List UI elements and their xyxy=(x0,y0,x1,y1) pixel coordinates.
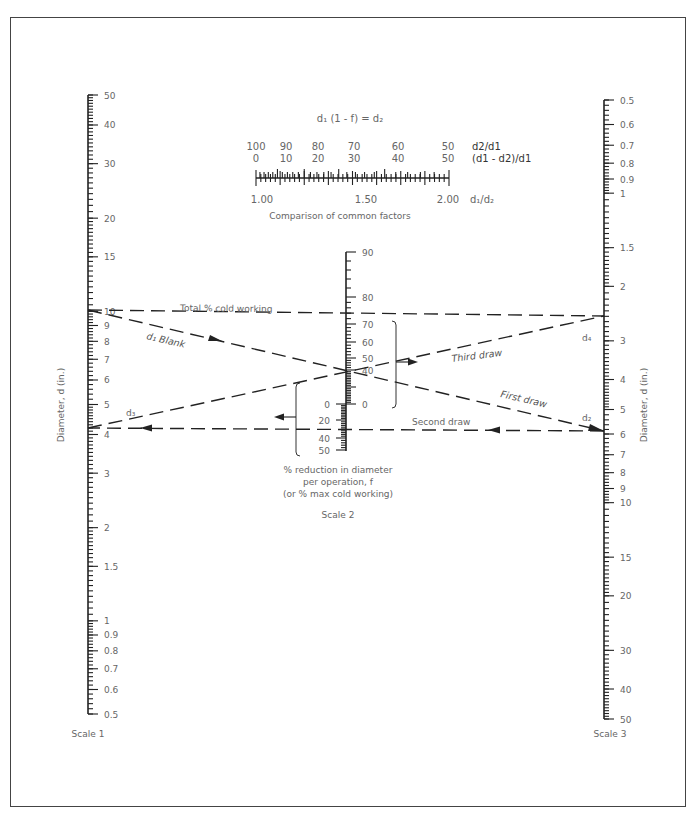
label-second-draw: Second draw xyxy=(412,417,470,427)
scale2-upper-tick-label: 50 xyxy=(362,354,374,364)
scale1-tick-label: 1 xyxy=(104,616,110,626)
scale2-upper-tick-label: 0 xyxy=(362,400,368,410)
cmp-top-5: 50 xyxy=(442,141,455,152)
scale3-tick-label: 20 xyxy=(620,591,632,601)
scale1-tick-label: 5 xyxy=(104,400,110,410)
cmp-mid-2: 20 xyxy=(312,153,325,164)
scale3-tick-label: 30 xyxy=(620,646,632,656)
formula: d₁ (1 - f) = d₂ xyxy=(317,113,383,124)
scale1-tick-label: 50 xyxy=(104,91,116,101)
scale2-lower-tick-label: 40 xyxy=(319,434,331,444)
scale2-caption-2: per operation, f xyxy=(303,477,374,487)
scale3-tick-label: 40 xyxy=(620,685,632,695)
cmp-bottom-1: 1.50 xyxy=(355,194,377,205)
label-d2: d₂ xyxy=(582,413,592,423)
label-d1-blank: d₁ Blank xyxy=(146,330,187,350)
scale3-tick-label: 0.8 xyxy=(620,159,635,169)
cmp-mid-label: (d1 - d2)/d1 xyxy=(472,153,531,164)
scale2-upper-tick-label: 60 xyxy=(362,338,374,348)
scale2-upper-bracket xyxy=(392,321,396,408)
comparison-scale: 100 90 80 70 60 50 d2/d1 0 10 20 30 40 5… xyxy=(246,141,531,221)
scale-1: 504030201510987654321.510.90.80.70.60.5 … xyxy=(56,91,119,740)
scale2-caption-1: % reduction in diameter xyxy=(284,465,393,475)
arrow-left-icon xyxy=(274,414,284,421)
scale1-tick-label: 0.8 xyxy=(104,646,119,656)
scale1-tick-label: 4 xyxy=(104,430,110,440)
scale3-axis-label: Diameter, d (in.) xyxy=(639,368,649,442)
scale3-tick-label: 15 xyxy=(620,553,631,563)
cmp-bottom-2: 2.00 xyxy=(437,194,459,205)
arrow-second-draw-right-icon xyxy=(488,427,500,434)
scale1-tick-label: 20 xyxy=(104,214,116,224)
scale2-lower-tick-label: 20 xyxy=(319,416,331,426)
scale3-tick-label: 0.6 xyxy=(620,120,635,130)
scale1-tick-label: 2 xyxy=(104,523,110,533)
cmp-top-2: 80 xyxy=(312,141,325,152)
cmp-mid-0: 0 xyxy=(253,153,259,164)
scale3-tick-label: 4 xyxy=(620,375,626,385)
scale2-lower-tick-label: 50 xyxy=(319,446,331,456)
scale3-tick-label: 8 xyxy=(620,468,626,478)
scale1-tick-label: 8 xyxy=(104,337,110,347)
scale1-tick-label: 9 xyxy=(104,321,110,331)
scale1-tick-label: 0.9 xyxy=(104,630,119,640)
cmp-caption: Comparison of common factors xyxy=(269,211,411,221)
scale3-tick-label: 0.5 xyxy=(620,96,634,106)
cmp-top-3: 70 xyxy=(348,141,361,152)
arrow-second-draw-left-icon xyxy=(140,425,152,432)
scale3-tick-label: 0.9 xyxy=(620,175,635,185)
scale2-upper-tick-label: 90 xyxy=(362,248,374,258)
arrow-right-icon xyxy=(408,359,418,366)
scale3-tick-label: 7 xyxy=(620,450,626,460)
label-third-draw: Third draw xyxy=(451,347,503,364)
cmp-top-4: 60 xyxy=(392,141,405,152)
cmp-top-label: d2/d1 xyxy=(472,141,501,152)
scale1-tick-label: 15 xyxy=(104,252,115,262)
scale1-tick-label: 1.5 xyxy=(104,562,118,572)
scale3-tick-label: 50 xyxy=(620,715,632,725)
cmp-bottom-0: 1.00 xyxy=(251,194,273,205)
scale1-tick-label: 0.6 xyxy=(104,685,119,695)
cmp-mid-5: 50 xyxy=(442,153,455,164)
scale1-tick-label: 0.7 xyxy=(104,664,118,674)
scale3-tick-label: 10 xyxy=(620,498,632,508)
scale3-tick-label: 2 xyxy=(620,282,626,292)
scale2-caption-3: (or % max cold working) xyxy=(283,489,393,499)
scale3-tick-label: 1.5 xyxy=(620,243,634,253)
label-d4: d₄ xyxy=(582,333,592,343)
label-first-draw: First draw xyxy=(500,388,549,409)
scale1-tick-label: 7 xyxy=(104,355,110,365)
scale3-tick-label: 0.7 xyxy=(620,141,634,151)
scale2-lower-tick-label: 0 xyxy=(324,400,330,410)
scale3-tick-label: 3 xyxy=(620,336,626,346)
nomogram: d₁ (1 - f) = d₂ 100 90 80 70 60 50 d2/d1… xyxy=(0,0,692,814)
scale2-upper-tick-label: 80 xyxy=(362,293,374,303)
cmp-bottom-label: d₁/d₂ xyxy=(470,194,494,205)
arrow-d2-icon xyxy=(588,424,604,431)
cmp-top-0: 100 xyxy=(246,141,265,152)
scale3-tick-label: 1 xyxy=(620,189,626,199)
scale1-tick-label: 6 xyxy=(104,375,110,385)
scale3-name: Scale 3 xyxy=(594,729,627,739)
cmp-ticks xyxy=(260,169,444,185)
scale-3: 0.50.60.70.80.911.523456789101520304050 … xyxy=(594,96,649,740)
cmp-mid-4: 40 xyxy=(392,153,405,164)
scale1-tick-label: 30 xyxy=(104,159,116,169)
cmp-mid-3: 30 xyxy=(348,153,361,164)
cmp-mid-1: 10 xyxy=(280,153,293,164)
scale1-name: Scale 1 xyxy=(72,729,105,739)
arrow-first-draw-icon xyxy=(208,335,222,341)
scale1-tick-label: 0.5 xyxy=(104,710,118,720)
label-total-cold-working: Total % cold working xyxy=(179,303,273,314)
scale1-tick-label: 40 xyxy=(104,120,116,130)
scale1-axis-label: Diameter, d (in.) xyxy=(56,368,66,442)
scale1-tick-label: 3 xyxy=(104,469,110,479)
scale2-name: Scale 2 xyxy=(322,510,355,520)
scale3-tick-label: 9 xyxy=(620,484,626,494)
scale-2: 90807060504000204050 % reduction in diam… xyxy=(274,248,418,521)
scale3-tick-label: 6 xyxy=(620,430,626,440)
cmp-top-1: 90 xyxy=(280,141,293,152)
scale3-tick-label: 5 xyxy=(620,405,626,415)
scale2-lower-bracket xyxy=(296,383,300,456)
label-d3: d₃ xyxy=(126,408,136,418)
